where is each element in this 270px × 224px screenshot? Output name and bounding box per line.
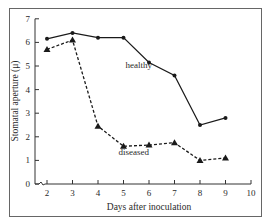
series-group: healthydiseased [44,31,230,163]
circle-marker [224,116,228,120]
circle-marker [45,37,49,41]
y-tick-label: 4 [26,85,31,95]
triangle-marker [171,139,178,145]
x-tick-label: 4 [96,188,101,198]
healthy-label: healthy [126,60,153,70]
x-tick-label: 7 [172,188,177,198]
circle-marker [122,36,126,40]
triangle-marker [69,37,76,43]
x-tick-label: 3 [70,188,75,198]
x-tick-label: 8 [198,188,203,198]
x-tick-label: 2 [45,188,50,198]
y-tick-label: 2 [26,132,31,142]
y-tick-label: 3 [26,108,31,118]
circle-marker [71,31,75,35]
diseased-line [47,40,226,160]
circle-marker [198,123,202,127]
circle-marker [173,73,177,77]
y-tick-label: 6 [26,37,31,47]
x-tick-label: 9 [223,188,228,198]
x-tick-label: 6 [147,188,152,198]
y-tick-label: 5 [26,61,31,71]
axes: 012345672345678910 [26,14,257,198]
line-chart: 012345672345678910 healthydiseased Days … [0,0,270,224]
x-tick-label: 10 [247,188,257,198]
series-diseased: diseased [44,37,230,163]
x-tick-label: 5 [121,188,126,198]
y-axis-label: Stomatal aperture (μ) [10,60,21,141]
healthy-line [47,33,226,125]
x-axis [35,182,251,185]
x-axis-label: Days after inoculation [107,202,192,212]
triangle-marker [222,155,229,161]
diseased-label: diseased [118,147,149,157]
circle-marker [96,36,100,40]
y-tick-label: 1 [26,155,31,165]
triangle-marker [95,123,102,129]
triangle-marker [197,157,204,163]
y-tick-label: 7 [26,14,31,24]
series-healthy: healthy [45,31,228,127]
y-tick-label: 0 [26,179,31,189]
